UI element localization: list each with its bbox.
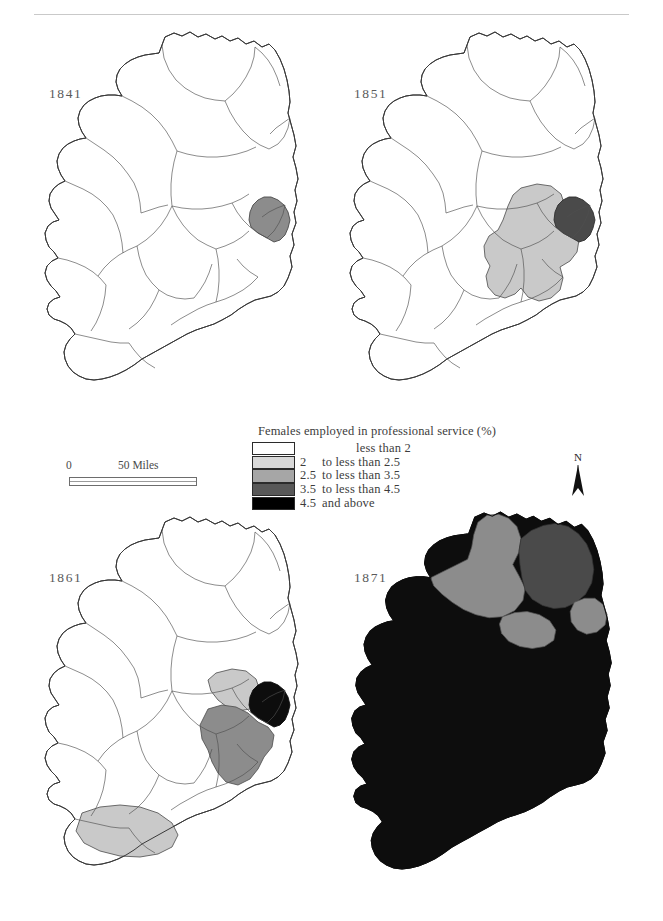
scale-label-zero: 0 [66, 459, 72, 471]
north-arrow: N [563, 452, 593, 498]
scale-bar: 0 50 Miles [66, 459, 216, 474]
legend-lo-class-5: 4.5 [300, 496, 322, 511]
running-header-text [34, 0, 629, 8]
legend-label-class-5: 4.5and above [300, 496, 375, 511]
legend-rest-class-2: to less than 2.5 [322, 455, 400, 469]
legend-swatch-class-1 [252, 442, 295, 455]
panel-year-label-1841: 1841 [49, 86, 82, 102]
legend-row: 2to less than 2.5 [252, 456, 515, 470]
legend-rest-class-5: and above [322, 496, 375, 510]
legend-swatch-class-2 [252, 456, 295, 469]
legend-swatch-class-4 [252, 483, 295, 496]
legend-rest-class-4: to less than 4.5 [322, 482, 400, 496]
legend-rows: less than 2 2to less than 2.5 2.5to less… [252, 442, 515, 510]
map-svg-1861 [22, 508, 322, 908]
north-arrow-label: N [563, 452, 593, 463]
scale-bar-labels: 0 50 Miles [66, 459, 216, 474]
header-rule [34, 14, 629, 15]
figure-page: 1841 1851 1861 [0, 0, 663, 921]
panel-year-label-1871: 1871 [354, 570, 387, 586]
legend-row: 3.5to less than 4.5 [252, 483, 515, 497]
map-panel-1861[interactable]: 1861 [22, 508, 322, 908]
north-arrow-icon [569, 464, 587, 498]
map-svg-1871 [327, 508, 637, 908]
scale-bar-graphic [69, 477, 197, 486]
legend-row: less than 2 [252, 442, 515, 456]
map-panel-1841[interactable]: 1841 [22, 28, 322, 418]
map-panel-1851[interactable]: 1851 [327, 28, 627, 418]
legend-row: 4.5and above [252, 496, 515, 510]
panel-year-label-1851: 1851 [354, 86, 387, 102]
map-legend: Females employed in professional service… [215, 424, 515, 510]
legend-row: 2.5to less than 3.5 [252, 469, 515, 483]
map-panel-1871[interactable]: 1871 [327, 508, 637, 908]
legend-title: Females employed in professional service… [239, 424, 515, 439]
panel-year-label-1861: 1861 [49, 570, 82, 586]
legend-swatch-class-5 [252, 497, 295, 510]
legend-swatch-class-3 [252, 469, 295, 482]
legend-rest-class-3: to less than 3.5 [322, 468, 400, 482]
scale-label-fifty: 50 Miles [118, 459, 159, 471]
